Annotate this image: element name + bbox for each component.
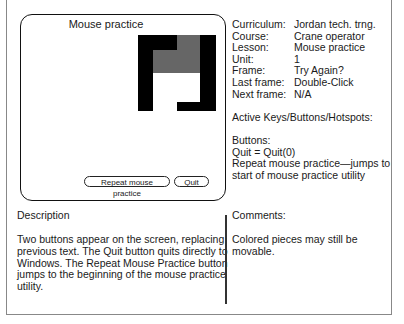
description-heading: Description (17, 210, 70, 222)
buttons-repeat-line-cont: start of mouse practice utility (232, 170, 390, 182)
quit-button[interactable]: Quit (174, 176, 209, 187)
comments-body: Colored pieces may still be movable. (232, 234, 357, 258)
puzzle-piece-black-left[interactable] (138, 35, 153, 111)
frame-info: Curriculum:Jordan tech. trng. Course:Cra… (232, 19, 390, 181)
buttons-repeat-line: Repeat mouse practice—jumps to (232, 158, 390, 170)
active-keys-heading: Active Keys/Buttons/Hotspots: (232, 112, 390, 124)
screen-mockup: Mouse practice Repeat mouse practice Qui… (20, 14, 226, 201)
buttons-heading: Buttons: (232, 135, 390, 147)
puzzle-piece-black-right[interactable] (200, 35, 216, 111)
repeat-mouse-practice-button[interactable]: Repeat mouse practice (84, 176, 170, 187)
comments-heading: Comments: (232, 210, 286, 222)
info-row-next-frame: Next frame:N/A (232, 89, 390, 101)
puzzle-piece-gray[interactable] (153, 50, 200, 73)
screen-title: Mouse practice (21, 18, 191, 30)
info-row-last-frame: Last frame:Double-Click (232, 77, 390, 89)
puzzle-piece-gray-top[interactable] (177, 35, 200, 50)
description-body: Two buttons appear on the screen, replac… (17, 234, 228, 293)
puzzle-piece-black-bottom[interactable] (177, 102, 216, 111)
info-row-lesson: Lesson:Mouse practice (232, 42, 390, 54)
column-divider (225, 215, 227, 304)
info-row-curriculum: Curriculum:Jordan tech. trng. (232, 19, 390, 31)
